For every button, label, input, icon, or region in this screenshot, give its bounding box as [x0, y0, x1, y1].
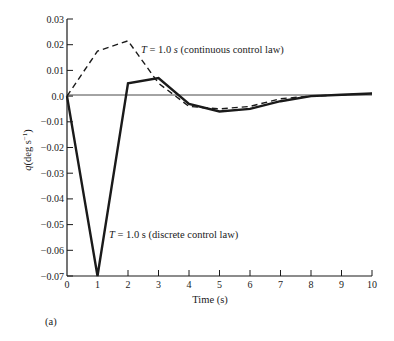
x-tick-label: 2: [126, 279, 131, 290]
y-tick-label: −0.06: [41, 245, 64, 256]
x-tick-label: 5: [217, 279, 222, 290]
x-tick-label: 0: [65, 279, 70, 290]
discrete-series-line: [67, 78, 372, 276]
x-axis-label: Time (s): [192, 294, 228, 306]
x-tick-label: 6: [248, 279, 253, 290]
x-tick-label: 1: [95, 279, 100, 290]
x-tick-label: 10: [367, 279, 377, 290]
continuous-annotation: T = 1.0 s (continuous control law): [141, 44, 284, 56]
y-tick-label: −0.01: [41, 116, 64, 127]
panel-label: (a): [45, 316, 57, 328]
x-axis-ticks: 012345678910: [65, 270, 378, 290]
x-tick-label: 8: [309, 279, 314, 290]
y-tick-label: −0.07: [41, 271, 64, 282]
y-tick-label: −0.03: [41, 168, 64, 179]
y-axis-ticks: 0.030.020.010.0−0.01−0.02−0.03−0.04−0.05…: [41, 14, 73, 282]
y-tick-label: 0.03: [47, 14, 65, 25]
x-tick-label: 7: [278, 279, 283, 290]
y-tick-label: −0.05: [41, 219, 64, 230]
y-tick-label: 0.02: [47, 39, 65, 50]
discrete-annotation: T = 1.0 s (discrete control law): [109, 229, 239, 241]
y-tick-label: 0.0: [52, 91, 65, 102]
y-tick-label: 0.01: [47, 65, 65, 76]
y-tick-label: −0.02: [41, 142, 64, 153]
y-tick-label: −0.04: [41, 193, 64, 204]
x-tick-label: 9: [339, 279, 344, 290]
x-tick-label: 3: [156, 279, 161, 290]
y-axis-label: q(deg s−1): [21, 129, 34, 171]
x-tick-label: 4: [187, 279, 192, 290]
line-chart: 0.030.020.010.0−0.01−0.02−0.03−0.04−0.05…: [0, 0, 394, 341]
